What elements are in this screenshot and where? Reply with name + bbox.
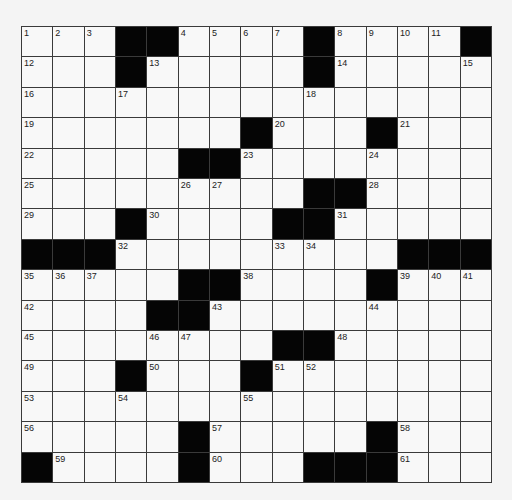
grid-cell[interactable] bbox=[241, 301, 272, 331]
grid-cell[interactable]: 28 bbox=[367, 179, 398, 209]
grid-cell[interactable]: 60 bbox=[210, 453, 241, 483]
grid-cell[interactable] bbox=[116, 118, 147, 148]
grid-cell[interactable] bbox=[85, 331, 116, 361]
grid-cell[interactable] bbox=[85, 422, 116, 452]
grid-cell[interactable] bbox=[367, 209, 398, 239]
grid-cell[interactable] bbox=[273, 422, 304, 452]
grid-cell[interactable] bbox=[304, 118, 335, 148]
grid-cell[interactable]: 38 bbox=[241, 270, 272, 300]
grid-cell[interactable] bbox=[461, 209, 492, 239]
grid-cell[interactable] bbox=[116, 331, 147, 361]
grid-cell[interactable] bbox=[461, 331, 492, 361]
grid-cell[interactable]: 15 bbox=[461, 57, 492, 87]
grid-cell[interactable]: 30 bbox=[147, 209, 178, 239]
grid-cell[interactable]: 33 bbox=[273, 240, 304, 270]
grid-cell[interactable] bbox=[53, 179, 84, 209]
grid-cell[interactable] bbox=[85, 301, 116, 331]
grid-cell[interactable]: 45 bbox=[22, 331, 53, 361]
grid-cell[interactable] bbox=[147, 270, 178, 300]
grid-cell[interactable] bbox=[461, 392, 492, 422]
grid-cell[interactable]: 25 bbox=[22, 179, 53, 209]
grid-cell[interactable] bbox=[429, 422, 460, 452]
grid-cell[interactable] bbox=[367, 57, 398, 87]
grid-cell[interactable]: 44 bbox=[367, 301, 398, 331]
grid-cell[interactable] bbox=[461, 179, 492, 209]
grid-cell[interactable] bbox=[241, 453, 272, 483]
grid-cell[interactable]: 22 bbox=[22, 149, 53, 179]
grid-cell[interactable] bbox=[335, 149, 366, 179]
grid-cell[interactable] bbox=[210, 331, 241, 361]
grid-cell[interactable]: 61 bbox=[398, 453, 429, 483]
grid-cell[interactable]: 29 bbox=[22, 209, 53, 239]
grid-cell[interactable] bbox=[304, 149, 335, 179]
grid-cell[interactable]: 24 bbox=[367, 149, 398, 179]
grid-cell[interactable] bbox=[429, 361, 460, 391]
grid-cell[interactable] bbox=[429, 149, 460, 179]
grid-cell[interactable] bbox=[398, 149, 429, 179]
grid-cell[interactable] bbox=[210, 209, 241, 239]
grid-cell[interactable]: 58 bbox=[398, 422, 429, 452]
grid-cell[interactable]: 54 bbox=[116, 392, 147, 422]
grid-cell[interactable] bbox=[273, 88, 304, 118]
grid-cell[interactable]: 42 bbox=[22, 301, 53, 331]
grid-cell[interactable] bbox=[85, 453, 116, 483]
grid-cell[interactable]: 5 bbox=[210, 27, 241, 57]
grid-cell[interactable]: 27 bbox=[210, 179, 241, 209]
grid-cell[interactable] bbox=[429, 118, 460, 148]
grid-cell[interactable] bbox=[304, 422, 335, 452]
grid-cell[interactable] bbox=[85, 57, 116, 87]
grid-cell[interactable]: 21 bbox=[398, 118, 429, 148]
grid-cell[interactable] bbox=[429, 209, 460, 239]
grid-cell[interactable] bbox=[304, 301, 335, 331]
grid-cell[interactable]: 1 bbox=[22, 27, 53, 57]
grid-cell[interactable]: 6 bbox=[241, 27, 272, 57]
grid-cell[interactable] bbox=[398, 392, 429, 422]
grid-cell[interactable]: 59 bbox=[53, 453, 84, 483]
grid-cell[interactable] bbox=[461, 149, 492, 179]
grid-cell[interactable] bbox=[210, 88, 241, 118]
grid-cell[interactable] bbox=[398, 301, 429, 331]
grid-cell[interactable]: 48 bbox=[335, 331, 366, 361]
grid-cell[interactable]: 14 bbox=[335, 57, 366, 87]
grid-cell[interactable] bbox=[367, 240, 398, 270]
grid-cell[interactable] bbox=[179, 118, 210, 148]
grid-cell[interactable] bbox=[179, 57, 210, 87]
grid-cell[interactable] bbox=[335, 422, 366, 452]
grid-cell[interactable] bbox=[147, 149, 178, 179]
grid-cell[interactable]: 52 bbox=[304, 361, 335, 391]
grid-cell[interactable]: 12 bbox=[22, 57, 53, 87]
grid-cell[interactable] bbox=[461, 422, 492, 452]
grid-cell[interactable]: 3 bbox=[85, 27, 116, 57]
grid-cell[interactable]: 40 bbox=[429, 270, 460, 300]
grid-cell[interactable] bbox=[273, 179, 304, 209]
grid-cell[interactable] bbox=[85, 118, 116, 148]
grid-cell[interactable]: 17 bbox=[116, 88, 147, 118]
grid-cell[interactable] bbox=[210, 57, 241, 87]
grid-cell[interactable] bbox=[53, 88, 84, 118]
grid-cell[interactable] bbox=[116, 179, 147, 209]
grid-cell[interactable] bbox=[85, 88, 116, 118]
grid-cell[interactable] bbox=[461, 361, 492, 391]
grid-cell[interactable]: 55 bbox=[241, 392, 272, 422]
grid-cell[interactable] bbox=[335, 88, 366, 118]
grid-cell[interactable] bbox=[210, 240, 241, 270]
grid-cell[interactable]: 56 bbox=[22, 422, 53, 452]
grid-cell[interactable] bbox=[85, 149, 116, 179]
grid-cell[interactable]: 8 bbox=[335, 27, 366, 57]
grid-cell[interactable] bbox=[367, 392, 398, 422]
grid-cell[interactable] bbox=[273, 453, 304, 483]
grid-cell[interactable]: 2 bbox=[53, 27, 84, 57]
grid-cell[interactable] bbox=[398, 179, 429, 209]
grid-cell[interactable] bbox=[116, 453, 147, 483]
grid-cell[interactable] bbox=[335, 392, 366, 422]
grid-cell[interactable]: 16 bbox=[22, 88, 53, 118]
grid-cell[interactable] bbox=[85, 361, 116, 391]
grid-cell[interactable] bbox=[335, 361, 366, 391]
grid-cell[interactable]: 46 bbox=[147, 331, 178, 361]
grid-cell[interactable] bbox=[398, 361, 429, 391]
grid-cell[interactable] bbox=[335, 118, 366, 148]
grid-cell[interactable] bbox=[147, 118, 178, 148]
grid-cell[interactable] bbox=[210, 361, 241, 391]
grid-cell[interactable] bbox=[461, 301, 492, 331]
grid-cell[interactable]: 18 bbox=[304, 88, 335, 118]
